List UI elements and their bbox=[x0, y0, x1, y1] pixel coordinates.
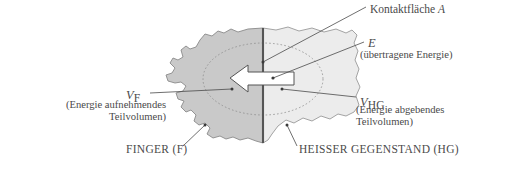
label-volume-hot-description: (Energie abgebendes Teilvolumen) bbox=[356, 104, 444, 128]
anchor-dot-volume-finger bbox=[231, 88, 234, 91]
label-volume-finger-description: (Energie aufnehmendes Teilvolumen) bbox=[8, 99, 166, 123]
label-energy-description: (übertragene Energie) bbox=[360, 49, 452, 61]
label-finger: FINGER (F) bbox=[126, 143, 187, 156]
anchor-dot-volume-hot bbox=[281, 88, 284, 91]
anchor-dot-finger bbox=[204, 124, 207, 127]
label-contact-area-text: Kontaktfläche bbox=[370, 3, 435, 15]
anchor-dot-contact-area bbox=[262, 61, 265, 64]
label-contact-area: Kontaktfläche A bbox=[370, 3, 445, 16]
label-energy-symbol: E bbox=[368, 36, 376, 50]
label-volume-hot-description-line2: Teilvolumen) bbox=[356, 116, 444, 128]
label-contact-area-symbol: A bbox=[438, 3, 445, 15]
label-volume-finger-description-line1: (Energie aufnehmendes bbox=[8, 99, 166, 111]
leader-line-hot-object bbox=[287, 125, 297, 146]
label-volume-hot-description-line1: (Energie abgebendes bbox=[356, 104, 444, 116]
anchor-dot-energy bbox=[271, 76, 274, 79]
anchor-dot-hot-object bbox=[286, 124, 289, 127]
label-volume-finger-description-line2: Teilvolumen) bbox=[8, 111, 166, 123]
label-hot-object: HEISSER GEGENSTAND (HG) bbox=[299, 143, 459, 156]
